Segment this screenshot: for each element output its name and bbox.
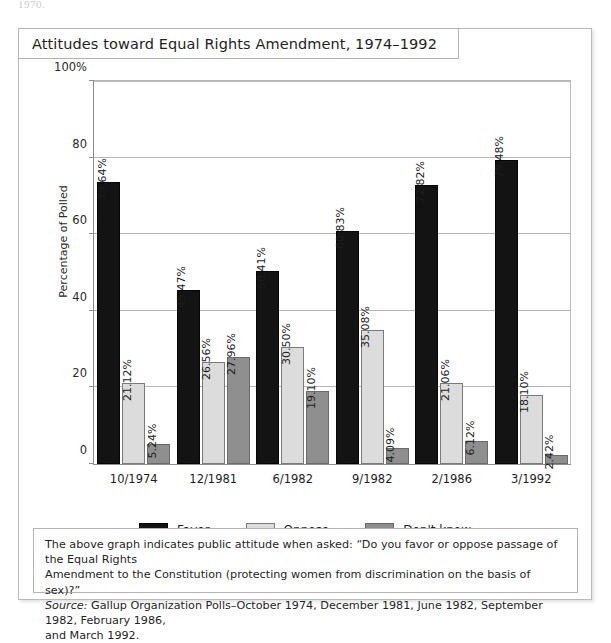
bar-group: 73.64%21.12%5.24%10/1974 — [94, 81, 174, 464]
bar-oppose: 26.56% — [202, 362, 225, 464]
bar-value-label: 50.41% — [255, 247, 268, 289]
x-axis-tick-label: 10/1974 — [110, 472, 158, 486]
bar-value-label: 2.42% — [543, 434, 556, 469]
bar-favor: 60.83% — [336, 231, 359, 464]
x-axis-tick-label: 12/1981 — [189, 472, 237, 486]
bar-dontknow: 6.12% — [465, 441, 488, 464]
bar-value-label: 73.64% — [96, 158, 109, 200]
bar-value-label: 35.08% — [359, 306, 372, 348]
bar-dontknow: 4.09% — [386, 448, 409, 464]
bar-favor: 72.82% — [415, 185, 438, 464]
bar-value-label: 30.50% — [280, 323, 293, 365]
x-axis-tick-label: 9/1982 — [352, 472, 392, 486]
bar-group: 50.41%30.50%19.10%6/1982 — [253, 81, 333, 464]
bar-value-label: 6.12% — [464, 420, 477, 455]
caption-line-4: and March 1992. — [45, 628, 566, 643]
bar-favor: 73.64% — [97, 182, 120, 464]
y-axis-label: Percentage of Polled — [57, 167, 70, 317]
bar-oppose: 35.08% — [361, 330, 384, 464]
x-axis-tick-label: 3/1992 — [511, 472, 551, 486]
caption-source-line: Source: Gallup Organization Polls–Octobe… — [45, 598, 566, 628]
bar-group: 60.83%35.08%4.09%9/1982 — [333, 81, 413, 464]
caption-line-1: The above graph indicates public attitud… — [45, 537, 566, 567]
figure-title-box: Attitudes toward Equal Rights Amendment,… — [18, 28, 459, 59]
bar-groups: 73.64%21.12%5.24%10/197445.47%26.56%27.9… — [94, 81, 571, 464]
source-label: Source: — [45, 599, 87, 612]
x-axis-tick-label: 6/1982 — [273, 472, 313, 486]
bar-oppose: 30.50% — [281, 347, 304, 464]
bar-value-label: 27.96% — [225, 333, 238, 375]
y-axis-tick-label: 20 — [72, 366, 87, 380]
bar-favor: 45.47% — [177, 290, 200, 464]
source-text: Gallup Organization Polls–October 1974, … — [45, 599, 543, 627]
y-axis-tick-label: 80 — [72, 137, 87, 151]
bar-value-label: 21.06% — [439, 359, 452, 401]
page-text-fragment: 1970. — [18, 0, 45, 10]
bar-dontknow: 27.96% — [227, 357, 250, 464]
bar-value-label: 45.47% — [175, 266, 188, 308]
bar-dontknow: 2.42% — [545, 455, 568, 464]
figure-frame: Attitudes toward Equal Rights Amendment,… — [18, 28, 592, 600]
bar-value-label: 26.56% — [200, 338, 213, 380]
caption-line-2: Amendment to the Constitution (protectin… — [45, 567, 566, 597]
bar-favor: 79.48% — [495, 160, 518, 464]
bar-favor: 50.41% — [256, 271, 279, 464]
bar-dontknow: 5.24% — [147, 444, 170, 464]
plot-region: 020406080100% 73.64%21.12%5.24%10/197445… — [93, 81, 571, 465]
page-title: Attitudes toward Equal Rights Amendment,… — [19, 36, 437, 52]
y-axis-tick-label: 40 — [72, 290, 87, 304]
x-axis-tick-label: 2/1986 — [432, 472, 472, 486]
y-axis-tick-label: 0 — [80, 443, 87, 457]
bar-value-label: 21.12% — [121, 359, 134, 401]
bar-value-label: 60.83% — [334, 207, 347, 249]
bar-dontknow: 19.10% — [306, 391, 329, 464]
bar-group: 79.48%18.10%2.42%3/1992 — [492, 81, 572, 464]
y-axis-tick-label: 60 — [72, 213, 87, 227]
bar-value-label: 79.48% — [493, 136, 506, 178]
bar-value-label: 4.09% — [384, 428, 397, 463]
bar-group: 45.47%26.56%27.96%12/1981 — [174, 81, 254, 464]
bar-oppose: 21.06% — [440, 383, 463, 464]
bar-oppose: 21.12% — [122, 383, 145, 464]
bar-group: 72.82%21.06%6.12%2/1986 — [412, 81, 492, 464]
bar-value-label: 72.82% — [414, 161, 427, 203]
bar-value-label: 19.10% — [305, 367, 318, 409]
bar-value-label: 5.24% — [146, 423, 159, 458]
bar-value-label: 18.10% — [518, 371, 531, 413]
caption-box: The above graph indicates public attitud… — [33, 528, 578, 593]
y-axis-tick-label: 100% — [54, 60, 87, 74]
bar-oppose: 18.10% — [520, 395, 543, 464]
chart-area: Percentage of Polled 020406080100% 73.64… — [19, 60, 591, 523]
